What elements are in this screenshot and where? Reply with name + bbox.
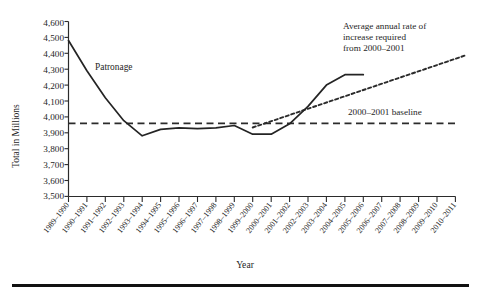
y-tick-label: 4,400 [43,49,64,59]
line-chart-svg: Total in Millions 4,600 4,500 4,400 4,30… [0,0,481,295]
x-axis-ticks [69,197,456,203]
bottom-divider-rule [12,284,469,287]
trend-annotation-line-3: from 2000–2001 [343,43,405,53]
x-axis-title-text: Year [236,259,254,270]
x-axis [69,197,456,203]
y-tick-label: 3,900 [43,128,64,138]
y-axis-title: Total in Millions [11,104,21,168]
y-tick-label: 3,500 [43,191,64,201]
patronage-series-line [69,41,364,136]
y-tick-label: 4,200 [43,81,64,91]
y-tick-label: 4,600 [43,18,64,28]
y-tick-label: 4,000 [43,112,64,122]
y-tick-label: 4,100 [43,97,64,107]
trend-annotation-line-2: increase required [343,32,406,42]
chart-figure: Total in Millions 4,600 4,500 4,400 4,30… [0,0,481,295]
y-tick-label: 4,500 [43,33,64,43]
patronage-series-label: Patronage [95,62,133,72]
y-tick-label: 3,800 [43,144,64,154]
baseline-annotation: 2000–2001 baseline [348,107,422,117]
trend-annotation: Average annual rate of increase required… [343,21,427,53]
y-tick-labels: 4,600 4,500 4,400 4,300 4,200 4,100 4,00… [43,18,64,202]
x-tick-labels: 1989–1990 1990–1991 1991–1992 1992–1993 … [42,201,458,235]
y-tick-label: 3,600 [43,176,64,186]
y-axis-title-text: Total in Millions [11,104,21,168]
y-tick-label: 3,700 [43,160,64,170]
y-tick-label: 4,300 [43,65,64,75]
y-axis [65,22,69,197]
trend-annotation-line-1: Average annual rate of [343,21,427,31]
